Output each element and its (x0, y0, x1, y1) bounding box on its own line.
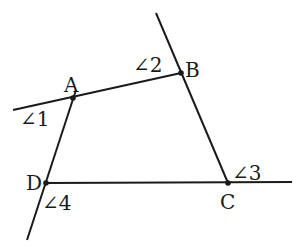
point-c (225, 180, 231, 186)
point-b (178, 70, 184, 76)
line-ab (13, 73, 181, 110)
geometry-diagram: ABCD ∠1∠2∠3∠4 (0, 0, 307, 247)
point-d (43, 180, 49, 186)
point-label-a: A (63, 73, 79, 97)
angle-label-4: ∠4 (42, 191, 71, 215)
diagram-canvas: ABCD ∠1∠2∠3∠4 (0, 0, 307, 247)
angle-label-2: ∠2 (133, 53, 162, 77)
line-bc (156, 13, 228, 183)
point-label-c: C (220, 190, 235, 214)
point-label-b: B (185, 58, 200, 82)
angle-label-3: ∠3 (232, 161, 261, 185)
angle-label-1: ∠1 (20, 107, 49, 131)
point-label-d: D (26, 171, 42, 195)
